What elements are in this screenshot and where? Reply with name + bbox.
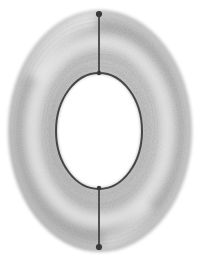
bottom-vertex-dot — [96, 244, 102, 250]
top-vertex-dot — [96, 11, 102, 17]
torus-illustration — [0, 0, 211, 265]
inner-bottom-junction-dot — [97, 186, 101, 190]
figure-canvas: Torus — [0, 0, 211, 265]
inner-top-junction-dot — [97, 71, 101, 75]
